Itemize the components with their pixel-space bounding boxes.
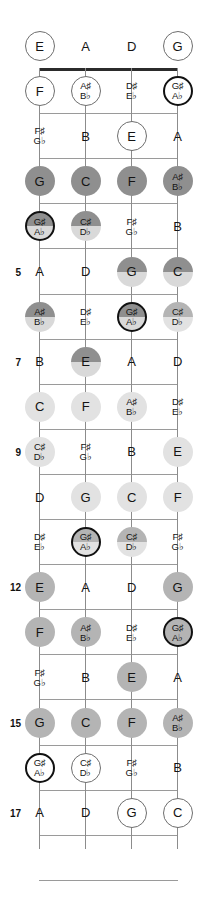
note-marker-f17-s1[interactable]: A bbox=[25, 798, 55, 828]
note-marker-f4-s4[interactable]: B bbox=[163, 211, 193, 241]
note-label: A bbox=[35, 265, 43, 278]
note-enharmonic-label: G♭ bbox=[126, 768, 138, 778]
note-enharmonic-label: G♭ bbox=[126, 227, 138, 237]
note-label: G♯ bbox=[172, 623, 184, 633]
note-marker-f2-s2[interactable]: B bbox=[71, 121, 101, 151]
note-enharmonic-label: B♭ bbox=[172, 723, 183, 733]
note-marker-f11-s3[interactable]: C♯D♭ bbox=[117, 527, 147, 557]
note-marker-f6-s1[interactable]: A♯B♭ bbox=[25, 302, 55, 332]
fret-wire-4 bbox=[39, 248, 178, 249]
note-marker-f10-s4[interactable]: F bbox=[163, 482, 193, 512]
note-label: A♯ bbox=[34, 307, 45, 317]
fret-wire-6 bbox=[39, 339, 178, 340]
note-marker-f13-s1[interactable]: F bbox=[25, 617, 55, 647]
note-marker-f13-s2[interactable]: A♯B♭ bbox=[71, 617, 101, 647]
note-marker-f15-s2[interactable]: C bbox=[71, 708, 101, 738]
note-marker-f11-s1[interactable]: D♯E♭ bbox=[25, 527, 55, 557]
note-label: E bbox=[127, 130, 135, 143]
note-marker-f15-s1[interactable]: G bbox=[25, 708, 55, 738]
note-label: G bbox=[127, 806, 137, 819]
note-label: D bbox=[81, 806, 90, 819]
note-marker-f0-s4[interactable]: G bbox=[163, 31, 193, 61]
note-marker-f3-s3[interactable]: F bbox=[117, 166, 147, 196]
note-label: D♯ bbox=[80, 307, 91, 317]
note-marker-f13-s3[interactable]: D♯E♭ bbox=[117, 617, 147, 647]
note-marker-f17-s3[interactable]: G bbox=[117, 798, 147, 828]
note-marker-f16-s1[interactable]: G♯A♭ bbox=[25, 753, 55, 783]
note-marker-f13-s4[interactable]: G♯A♭ bbox=[163, 617, 193, 647]
note-marker-f0-s2[interactable]: A bbox=[71, 31, 101, 61]
note-marker-f10-s2[interactable]: G bbox=[71, 482, 101, 512]
note-marker-f3-s4[interactable]: A♯B♭ bbox=[163, 166, 193, 196]
note-marker-f17-s4[interactable]: C bbox=[163, 798, 193, 828]
note-marker-f10-s1[interactable]: D bbox=[25, 482, 55, 512]
note-marker-f9-s1[interactable]: C♯D♭ bbox=[25, 437, 55, 467]
note-marker-f3-s1[interactable]: G bbox=[25, 166, 55, 196]
note-marker-f1-s2[interactable]: A♯B♭ bbox=[71, 76, 101, 106]
note-marker-f4-s1[interactable]: G♯A♭ bbox=[25, 211, 55, 241]
note-label: D bbox=[127, 581, 136, 594]
note-label: F bbox=[82, 400, 90, 413]
note-marker-f2-s4[interactable]: A bbox=[163, 121, 193, 151]
note-marker-f5-s3[interactable]: G bbox=[117, 257, 147, 287]
note-label: A♯ bbox=[172, 172, 183, 182]
note-marker-f12-s4[interactable]: G bbox=[163, 572, 193, 602]
note-enharmonic-label: G♭ bbox=[34, 136, 46, 146]
note-marker-f0-s3[interactable]: D bbox=[117, 31, 147, 61]
note-marker-f0-s1[interactable]: E bbox=[25, 31, 55, 61]
fret-wire-12 bbox=[39, 609, 178, 610]
fret-wire-8 bbox=[39, 429, 178, 430]
note-enharmonic-label: B♭ bbox=[80, 91, 91, 101]
note-marker-f6-s4[interactable]: C♯D♭ bbox=[163, 302, 193, 332]
note-marker-f15-s4[interactable]: A♯B♭ bbox=[163, 708, 193, 738]
note-marker-f9-s2[interactable]: F♯G♭ bbox=[71, 437, 101, 467]
note-enharmonic-label: E♭ bbox=[34, 542, 45, 552]
note-marker-f14-s3[interactable]: E bbox=[117, 662, 147, 692]
note-marker-f5-s1[interactable]: A bbox=[25, 257, 55, 287]
note-marker-f7-s4[interactable]: D bbox=[163, 347, 193, 377]
note-marker-f14-s1[interactable]: F♯G♭ bbox=[25, 662, 55, 692]
note-marker-f5-s4[interactable]: C bbox=[163, 257, 193, 287]
note-marker-f6-s3[interactable]: G♯A♭ bbox=[117, 302, 147, 332]
note-marker-f12-s1[interactable]: E bbox=[25, 572, 55, 602]
note-marker-f11-s4[interactable]: F♯G♭ bbox=[163, 527, 193, 557]
note-label: G bbox=[173, 581, 183, 594]
note-marker-f10-s3[interactable]: C bbox=[117, 482, 147, 512]
note-marker-f11-s2[interactable]: G♯A♭ bbox=[71, 527, 101, 557]
note-marker-f4-s3[interactable]: F♯G♭ bbox=[117, 211, 147, 241]
note-marker-f8-s3[interactable]: A♯B♭ bbox=[117, 392, 147, 422]
note-marker-f17-s2[interactable]: D bbox=[71, 798, 101, 828]
note-label: G♯ bbox=[34, 758, 46, 768]
note-marker-f7-s3[interactable]: A bbox=[117, 347, 147, 377]
note-marker-f7-s2[interactable]: E bbox=[71, 347, 101, 377]
note-marker-f5-s2[interactable]: D bbox=[71, 257, 101, 287]
note-marker-f16-s4[interactable]: B bbox=[163, 753, 193, 783]
note-marker-f7-s1[interactable]: B bbox=[25, 347, 55, 377]
note-marker-f2-s1[interactable]: F♯G♭ bbox=[25, 121, 55, 151]
note-marker-f1-s1[interactable]: F bbox=[25, 76, 55, 106]
note-marker-f14-s4[interactable]: A bbox=[163, 662, 193, 692]
note-marker-f8-s4[interactable]: D♯E♭ bbox=[163, 392, 193, 422]
note-marker-f9-s4[interactable]: E bbox=[163, 437, 193, 467]
note-marker-f9-s3[interactable]: B bbox=[117, 437, 147, 467]
note-label: F bbox=[128, 175, 136, 188]
note-marker-f6-s2[interactable]: D♯E♭ bbox=[71, 302, 101, 332]
fret-wire-14 bbox=[39, 699, 178, 700]
note-marker-f1-s4[interactable]: G♯A♭ bbox=[163, 76, 193, 106]
note-marker-f14-s2[interactable]: B bbox=[71, 662, 101, 692]
note-marker-f12-s3[interactable]: D bbox=[117, 572, 147, 602]
fret-wire-11 bbox=[39, 564, 178, 565]
note-marker-f8-s2[interactable]: F bbox=[71, 392, 101, 422]
note-marker-f15-s3[interactable]: F bbox=[117, 708, 147, 738]
note-marker-f8-s1[interactable]: C bbox=[25, 392, 55, 422]
note-marker-f1-s3[interactable]: D♯E♭ bbox=[117, 76, 147, 106]
note-marker-f12-s2[interactable]: A bbox=[71, 572, 101, 602]
note-marker-f3-s2[interactable]: C bbox=[71, 166, 101, 196]
note-marker-f4-s2[interactable]: C♯D♭ bbox=[71, 211, 101, 241]
note-marker-f2-s3[interactable]: E bbox=[117, 121, 147, 151]
note-marker-f16-s3[interactable]: F♯G♭ bbox=[117, 753, 147, 783]
note-enharmonic-label: B♭ bbox=[80, 633, 91, 643]
note-enharmonic-label: D♭ bbox=[80, 768, 91, 778]
note-label: E bbox=[173, 445, 181, 458]
note-marker-f16-s2[interactable]: C♯D♭ bbox=[71, 753, 101, 783]
